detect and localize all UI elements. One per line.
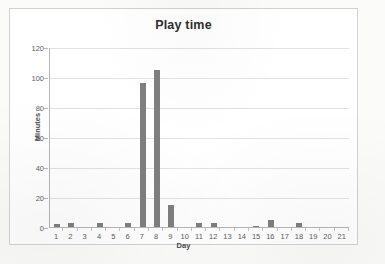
y-axis-tick-labels: 020406080100120 <box>10 48 44 228</box>
x-axis-tick-label: 18 <box>292 229 306 241</box>
y-axis-tick-label: 40 <box>36 164 44 173</box>
y-axis-tick-mark <box>44 108 48 109</box>
plot-area <box>49 48 349 228</box>
x-axis-tick-label: 6 <box>120 229 134 241</box>
chart-title: Play time <box>10 18 357 32</box>
x-axis-tick-label: 20 <box>320 229 334 241</box>
chart-page: Play time Minutes 020406080100120 123456… <box>0 0 385 264</box>
bar[interactable] <box>196 223 202 228</box>
x-axis-tick-label: 11 <box>192 229 206 241</box>
x-axis-tick-label: 12 <box>206 229 220 241</box>
x-axis-tick-label: 2 <box>63 229 77 241</box>
y-axis-tick-mark <box>44 138 48 139</box>
y-axis-tick-mark <box>44 228 48 229</box>
bar-slot <box>264 48 278 227</box>
bar-slot <box>207 48 221 227</box>
x-axis-tick-label: 3 <box>78 229 92 241</box>
y-axis-tick-label: 100 <box>31 74 44 83</box>
chart-frame: Play time Minutes 020406080100120 123456… <box>9 8 358 245</box>
bar-slot <box>192 48 206 227</box>
bar-slot <box>164 48 178 227</box>
x-axis-tick-label: 10 <box>178 229 192 241</box>
bar[interactable] <box>97 223 103 227</box>
bar[interactable] <box>296 223 302 227</box>
x-axis-tick-label: 17 <box>278 229 292 241</box>
x-axis-tick-label: 7 <box>135 229 149 241</box>
bar[interactable] <box>268 220 274 228</box>
bar-slot <box>235 48 249 227</box>
bar[interactable] <box>125 223 131 227</box>
x-axis-tick-label: 21 <box>335 229 349 241</box>
bar-slot <box>292 48 306 227</box>
x-axis-tick-label: 14 <box>235 229 249 241</box>
x-axis-tick-label: 5 <box>106 229 120 241</box>
bar-series <box>50 48 349 227</box>
bar[interactable] <box>168 205 174 228</box>
x-axis-title: Day <box>10 241 357 250</box>
x-axis-tick-label: 16 <box>263 229 277 241</box>
bar-slot <box>306 48 320 227</box>
x-axis-tick-label: 13 <box>220 229 234 241</box>
bar[interactable] <box>140 83 146 227</box>
bar[interactable] <box>253 226 259 227</box>
bar-slot <box>64 48 78 227</box>
y-axis-tick-mark <box>44 78 48 79</box>
x-axis-tick-label: 4 <box>92 229 106 241</box>
y-axis-tick-mark <box>44 48 48 49</box>
x-axis-tick-labels: 123456789101112131415161718192021 <box>49 229 349 241</box>
x-axis-tick-label: 1 <box>49 229 63 241</box>
bar-slot <box>278 48 292 227</box>
x-axis-tick-label: 8 <box>149 229 163 241</box>
bar-slot <box>249 48 263 227</box>
bar-slot <box>121 48 135 227</box>
bar[interactable] <box>54 224 60 227</box>
y-axis-tick-mark <box>44 168 48 169</box>
y-axis-tick-label: 60 <box>36 134 44 143</box>
x-axis-tick-label: 15 <box>249 229 263 241</box>
bar-slot <box>78 48 92 227</box>
y-axis-tick-mark <box>44 198 48 199</box>
bar-slot <box>221 48 235 227</box>
y-axis-tick-label: 80 <box>36 104 44 113</box>
y-axis-tick-label: 20 <box>36 194 44 203</box>
y-axis-tick-label: 120 <box>31 44 44 53</box>
x-axis-tick-label: 19 <box>306 229 320 241</box>
bar-slot <box>135 48 149 227</box>
bar-slot <box>107 48 121 227</box>
bar-slot <box>178 48 192 227</box>
bar-slot <box>150 48 164 227</box>
x-axis-tick-label: 9 <box>163 229 177 241</box>
bar-slot <box>335 48 349 227</box>
bar-slot <box>93 48 107 227</box>
bar-slot <box>50 48 64 227</box>
bar[interactable] <box>154 70 160 228</box>
bar[interactable] <box>68 223 74 227</box>
bar[interactable] <box>211 223 217 227</box>
bar-slot <box>320 48 334 227</box>
